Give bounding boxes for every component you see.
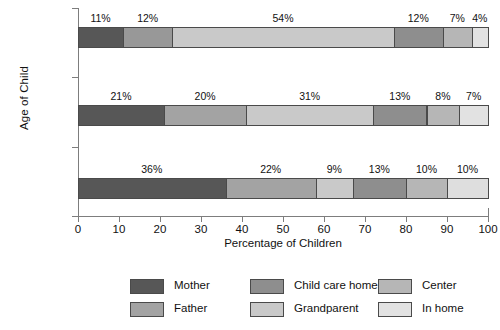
bar-row: 36%22%9%13%10%10% (78, 178, 488, 199)
legend-label: Center (422, 279, 457, 291)
bar-row: 11%12%54%12%7%4% (78, 27, 488, 48)
x-axis-tick (406, 216, 407, 222)
y-axis-tick (72, 147, 78, 148)
x-axis-tick-label: 50 (263, 223, 303, 235)
bar-segment-label: 54% (261, 12, 305, 24)
bar-segment (394, 27, 444, 48)
bar-segment-label: 9% (312, 163, 356, 175)
x-axis-tick (119, 216, 120, 222)
bar-segment-label: 31% (288, 90, 332, 102)
x-axis-tick (324, 216, 325, 222)
x-axis-tick (488, 216, 489, 222)
legend-swatch (250, 279, 284, 294)
bar-segment-label: 21% (99, 90, 143, 102)
bar-segment-label: 11% (79, 12, 123, 24)
x-axis-tick-label: 60 (304, 223, 344, 235)
legend-label: Grandparent (294, 302, 359, 314)
x-axis-tick (242, 216, 243, 222)
bar-segment (316, 178, 354, 199)
bar-segment-label: 10% (446, 163, 490, 175)
x-axis-tick (160, 216, 161, 222)
bar-segment (427, 105, 461, 126)
bar-segment-label: 20% (183, 90, 227, 102)
bar-segment-label: 22% (249, 163, 293, 175)
x-axis-tick (447, 216, 448, 222)
bar-segment-label: 12% (126, 12, 170, 24)
bar-segment (78, 105, 165, 126)
bar-segment-label: 12% (396, 12, 440, 24)
chart-legend: MotherFatherChild care homeGrandparentCe… (130, 278, 490, 324)
x-axis-tick (283, 216, 284, 222)
y-axis-title: Age of Child (18, 38, 30, 158)
bar-segment (472, 27, 489, 48)
bar-segment-label: 10% (405, 163, 449, 175)
bar-segment (226, 178, 317, 199)
legend-label: Child care home (294, 279, 378, 291)
bar-segment (353, 178, 407, 199)
legend-label: Father (174, 302, 207, 314)
legend-label: In home (422, 302, 464, 314)
bar-segment (78, 178, 227, 199)
bar-segment-label: 13% (378, 90, 422, 102)
stacked-bar-chart: Age of Child 0102030405060708090100 4 ½ … (0, 0, 500, 330)
bar-segment-label: 4% (458, 12, 500, 24)
x-axis-tick (201, 216, 202, 222)
bar-row: 21%20%31%13%8%7% (78, 105, 488, 126)
y-axis-tick (72, 8, 78, 9)
bar-segment (406, 178, 448, 199)
bar-segment (373, 105, 427, 126)
legend-swatch (378, 302, 412, 317)
x-axis-tick-label: 10 (99, 223, 139, 235)
x-axis-title: Percentage of Children (78, 237, 488, 249)
bar-segment (123, 27, 173, 48)
y-axis-tick (72, 77, 78, 78)
bar-segment (447, 178, 489, 199)
x-axis-tick-label: 0 (58, 223, 98, 235)
x-axis-tick-label: 100 (468, 223, 500, 235)
plot-area: 0102030405060708090100 4 ½ Years3 Years6… (78, 8, 488, 216)
bar-segment (164, 105, 247, 126)
bar-segment (246, 105, 374, 126)
x-axis-tick (365, 216, 366, 222)
legend-swatch (130, 302, 164, 317)
x-axis-tick-label: 70 (345, 223, 385, 235)
x-axis-tick (78, 216, 79, 222)
legend-label: Mother (174, 279, 210, 291)
bar-segment (443, 27, 473, 48)
bar-segment (172, 27, 394, 48)
bar-segment (78, 27, 124, 48)
x-axis-tick-label: 20 (140, 223, 180, 235)
bar-segment (459, 105, 489, 126)
legend-swatch (130, 279, 164, 294)
x-axis-right-cap (488, 208, 489, 216)
x-axis-tick-label: 90 (427, 223, 467, 235)
x-axis-tick-label: 40 (222, 223, 262, 235)
x-axis-tick-label: 80 (386, 223, 426, 235)
x-axis-tick-label: 30 (181, 223, 221, 235)
legend-swatch (250, 302, 284, 317)
legend-swatch (378, 279, 412, 294)
bar-segment-label: 36% (130, 163, 174, 175)
bar-segment-label: 13% (357, 163, 401, 175)
bar-segment-label: 7% (452, 90, 496, 102)
